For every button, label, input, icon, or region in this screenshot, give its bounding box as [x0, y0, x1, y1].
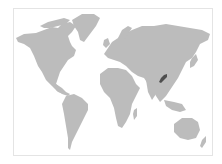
british-isles	[103, 38, 110, 48]
greenland	[72, 14, 100, 42]
new-zealand	[200, 136, 206, 148]
australia	[174, 118, 200, 140]
world-map	[0, 0, 222, 164]
southeast-asia-islands	[164, 100, 186, 112]
north-america	[16, 22, 76, 94]
south-america	[62, 94, 88, 150]
madagascar	[133, 108, 137, 120]
central-america	[56, 84, 70, 96]
